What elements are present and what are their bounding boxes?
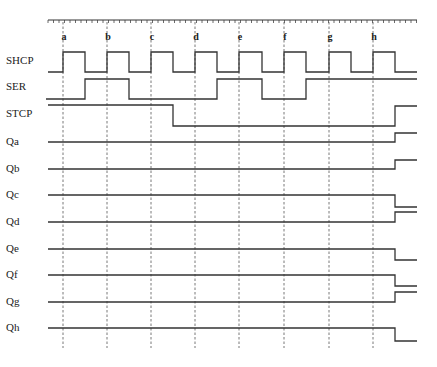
waveform-ser	[46, 79, 417, 99]
signal-waveforms	[46, 52, 417, 341]
marker-label-e: e	[238, 31, 243, 42]
signal-label-qa: Qa	[6, 135, 19, 147]
clock-marker-lines	[63, 22, 373, 348]
marker-label-a: a	[62, 31, 67, 42]
timing-diagram: abcdefgh SHCPSERSTCPQaQbQcQdQeQfQgQh	[0, 0, 437, 367]
signal-label-stcp: STCP	[6, 107, 32, 119]
time-ruler	[48, 20, 417, 23]
waveform-qe	[48, 249, 417, 260]
marker-label-c: c	[150, 31, 155, 42]
marker-label-d: d	[193, 31, 199, 42]
signal-label-qd: Qd	[6, 215, 20, 227]
signal-label-qe: Qe	[6, 242, 19, 254]
marker-label-g: g	[328, 31, 333, 42]
clock-marker-labels: abcdefgh	[62, 31, 378, 42]
waveform-qa	[48, 133, 417, 142]
waveform-qf	[48, 275, 417, 286]
signal-label-qc: Qc	[6, 188, 19, 200]
waveform-qb	[48, 160, 417, 169]
waveform-stcp	[48, 105, 417, 126]
signal-label-ser: SER	[6, 80, 27, 92]
marker-label-h: h	[371, 31, 377, 42]
waveform-shcp	[48, 52, 417, 72]
waveform-qh	[48, 328, 417, 341]
signal-label-qb: Qb	[6, 162, 20, 174]
signal-label-shcp: SHCP	[6, 54, 34, 66]
signal-labels: SHCPSERSTCPQaQbQcQdQeQfQgQh	[6, 54, 34, 333]
waveform-qg	[48, 292, 417, 302]
waveform-qc	[48, 195, 417, 207]
marker-label-f: f	[283, 31, 287, 42]
signal-label-qh: Qh	[6, 321, 20, 333]
waveform-qd	[48, 212, 417, 222]
signal-label-qg: Qg	[6, 295, 20, 307]
signal-label-qf: Qf	[6, 268, 18, 280]
marker-label-b: b	[105, 31, 111, 42]
